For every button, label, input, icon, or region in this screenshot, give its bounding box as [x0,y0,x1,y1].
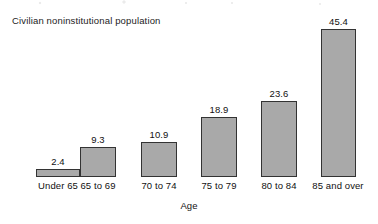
bar[interactable] [36,169,80,177]
plot-area: 2.4 9.3 10.9 18.9 23.6 45.4 [0,0,378,177]
bar-value-label: 9.3 [91,134,105,145]
category-label-2: 70 to 74 [127,180,191,191]
category-label-1: 65 to 69 [66,180,130,191]
bar-value-label: 45.4 [329,16,348,27]
bar-group-3: 18.9 [201,0,237,177]
bar[interactable] [201,117,237,177]
bar-group-5: 45.4 [321,0,356,177]
bar-group-2: 10.9 [141,0,177,177]
bar[interactable] [261,101,297,177]
bar-value-label: 18.9 [210,104,229,115]
category-label-3: 75 to 79 [187,180,251,191]
bar-value-label: 2.4 [51,156,65,167]
bar-value-label: 10.9 [150,129,169,140]
bar-group-4: 23.6 [261,0,297,177]
x-axis-title: Age [0,200,378,211]
bar[interactable] [321,29,356,177]
bar-group-1: 9.3 [80,0,116,177]
category-label-5: 85 and over [300,180,376,191]
bar[interactable] [141,142,177,177]
bar-group-0: 2.4 [36,0,80,177]
bar-chart: Civilian noninstitutional population 2.4… [0,0,378,224]
bar-value-label: 23.6 [270,88,289,99]
bar[interactable] [80,147,116,177]
